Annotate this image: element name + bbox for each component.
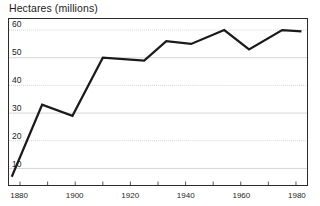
y-axis-tick-label: 50 [12, 48, 21, 57]
x-axis-tick-label: 1900 [66, 191, 84, 200]
plot-area: 605040302010 [8, 18, 308, 186]
x-axis-ticks-group [20, 182, 296, 185]
x-axis-tick-label: 1940 [177, 191, 195, 200]
y-axis-tick-label: 40 [12, 76, 21, 85]
y-axis-tick-label: 30 [12, 104, 21, 113]
y-axis-tick-label: 20 [12, 132, 21, 141]
chart-title: Hectares (millions) [9, 1, 98, 15]
data-series-group [12, 30, 302, 177]
chart-figure: Hectares (millions) 605040302010 1880190… [0, 0, 320, 206]
line-chart-svg [9, 19, 307, 185]
gridlines-group [9, 30, 307, 168]
data-line [12, 30, 302, 177]
y-axis-tick-label: 10 [12, 160, 21, 169]
x-axis-tick-label: 1980 [288, 191, 306, 200]
x-axis-tick-label: 1880 [10, 191, 28, 200]
x-axis-tick-label: 1920 [121, 191, 139, 200]
y-axis-tick-label: 60 [12, 20, 21, 29]
x-axis-tick-label: 1960 [232, 191, 250, 200]
